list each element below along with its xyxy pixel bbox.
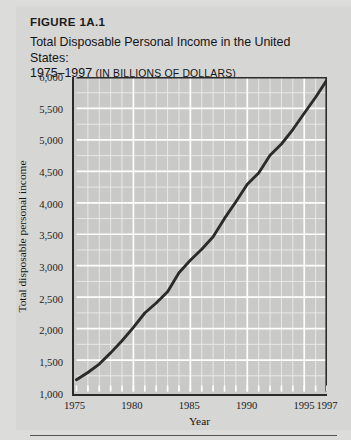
y-axis-tick-4000: 4,000 [39, 198, 63, 209]
y-axis-tick-1500: 1,500 [39, 356, 63, 367]
x-axis-tick-1980: 1980 [121, 400, 142, 411]
y-axis-tick-5000: 5,000 [39, 135, 63, 146]
plot-area [72, 77, 327, 396]
x-axis-tick-labels: 197519801985199019951997 [72, 400, 327, 416]
y-axis-tick-2500: 2,500 [39, 293, 63, 304]
x-axis-tick-1990: 1990 [236, 400, 257, 411]
x-axis-tick-1985: 1985 [179, 400, 200, 411]
x-axis-tick-1975: 1975 [64, 400, 85, 411]
x-axis-title: Year [72, 415, 327, 427]
figure-card: FIGURE 1A.1 Total Disposable Personal In… [16, 6, 351, 430]
y-axis-tick-5500: 5,500 [39, 103, 63, 114]
y-axis-tick-2000: 2,000 [39, 325, 63, 336]
x-axis-tick-1997: 1997 [316, 400, 337, 411]
y-axis-tick-6000: 6,000 [39, 72, 63, 83]
y-axis-tick-4500: 4,500 [39, 166, 63, 177]
figure-bottom-rule [30, 435, 337, 436]
income-line-series [74, 77, 327, 394]
y-axis-tick-3500: 3,500 [39, 230, 63, 241]
y-axis-title: Total disposable personal income [16, 77, 34, 396]
chart-plot-wrapper: 1,0001,5002,0002,5003,0003,5004,0004,500… [16, 6, 351, 430]
y-axis-tick-1000: 1,000 [39, 388, 63, 399]
y-axis-tick-3000: 3,000 [39, 261, 63, 272]
x-axis-tick-1995: 1995 [293, 400, 314, 411]
